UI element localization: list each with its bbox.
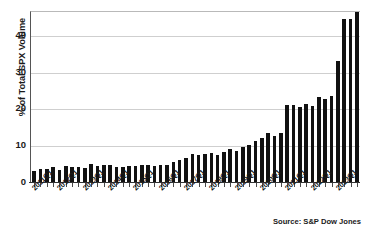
bar [260, 138, 264, 182]
bar-series [31, 11, 360, 182]
bar [228, 149, 232, 182]
bar [330, 96, 334, 182]
y-axis-tick-label: 0 [0, 176, 26, 187]
bar [311, 106, 315, 182]
bar [355, 12, 359, 182]
bar [292, 105, 296, 182]
x-axis-tick-labels: 2011Q12012Q12013Q12014Q12015Q12016Q12017… [31, 186, 366, 220]
bar [203, 154, 207, 182]
y-axis-tick-label: 40 [0, 29, 26, 40]
y-axis-tick-label: 20 [0, 102, 26, 113]
bar [184, 158, 188, 182]
bar [235, 151, 239, 182]
bar [342, 19, 346, 182]
y-axis-tick-label: 30 [0, 66, 26, 77]
bar [285, 105, 289, 182]
bar [317, 97, 321, 182]
source-note: Source: S&P Dow Jones [273, 217, 361, 226]
chart-title-cropped [0, 0, 366, 6]
bar [349, 19, 353, 182]
y-axis-tick-label: 10 [0, 139, 26, 150]
bar [336, 61, 340, 182]
chart-container: % of Total SPX Volume 010203040 2011Q120… [0, 0, 366, 233]
bar [210, 153, 214, 182]
